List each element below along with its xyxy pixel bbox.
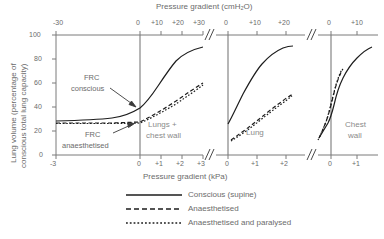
top-axis — [56, 31, 378, 35]
legend-label-anaesthetised: Anaesthetised — [188, 204, 239, 213]
panel-2-series — [228, 46, 293, 141]
annotation-arrows — [110, 88, 136, 133]
bottom-tick-p2-p1: +1 — [251, 160, 259, 167]
bottom-tick-p1-m3: -3 — [50, 160, 56, 167]
legend-label-conscious: Conscious (supine) — [188, 190, 256, 199]
legend-label-anaesthetised-paralysed: Anaesthetised and paralysed — [188, 218, 291, 227]
panel-label-chest-wall-line2: wall — [348, 131, 362, 141]
bottom-tick-p1-p3: +3 — [197, 160, 205, 167]
legend-swatches — [126, 190, 186, 232]
annotation-frc-anaesthetised-line2: anaesthetised — [62, 141, 109, 150]
chart-figure: Pressure gradient (cmH₂O) Lung volume (p… — [0, 0, 384, 239]
bottom-tick-p3-p1: +1 — [352, 160, 360, 167]
annotation-frc-conscious-line2: conscious — [71, 84, 104, 93]
annotation-frc-conscious-line1: FRC — [84, 73, 99, 82]
panel-label-chest-wall-line1: Chest — [345, 120, 366, 130]
bottom-tick-p1-p2: +2 — [176, 160, 184, 167]
y-axis — [52, 35, 56, 155]
panel-label-lung: Lung — [246, 128, 264, 138]
bottom-tick-p3-0: 0 — [328, 160, 332, 167]
bottom-axis — [56, 155, 378, 159]
bottom-tick-p2-0: 0 — [225, 160, 229, 167]
bottom-tick-p2-p2: +2 — [280, 160, 288, 167]
arrow-frc-anaesthetised-head — [128, 123, 135, 128]
bottom-tick-p1-0: 0 — [137, 160, 141, 167]
series-conscious-panel2 — [228, 46, 293, 124]
panel-label-lungs-chest-wall-line1: Lungs + — [148, 120, 177, 130]
annotation-frc-anaesthetised-line1: FRC — [85, 130, 100, 139]
series-paralysed-panel3 — [318, 70, 342, 140]
bottom-axis-title: Pressure gradient (kPa) — [143, 172, 227, 181]
bottom-tick-p1-p1: +1 — [155, 160, 163, 167]
panel-label-lungs-chest-wall-line2: chest wall — [146, 131, 181, 141]
